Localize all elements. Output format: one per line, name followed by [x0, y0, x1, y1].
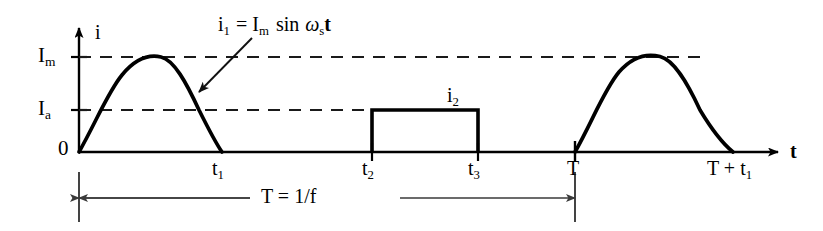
x-tick-label-T-plus-t1: T + t1	[707, 158, 752, 181]
equation-Im-sub: m	[259, 24, 269, 38]
x-tick-Tt1-main: T + t	[707, 157, 746, 179]
y-tick-label-Im: Im	[38, 45, 55, 68]
x-tick-label-t3: t3	[468, 158, 480, 181]
period-dimension	[79, 172, 575, 222]
y-axis-label: i	[95, 22, 101, 42]
equation-t: t	[324, 13, 331, 35]
sine-equation-label: i1= Imsinωst	[218, 14, 331, 37]
equation-leader-arrow	[199, 38, 252, 92]
rect-pulse-i2	[372, 110, 478, 152]
equation-omega: ω	[305, 13, 319, 35]
sine-pulse-2	[575, 55, 733, 152]
equation-equals: = I	[236, 13, 259, 35]
y-tick-Im-sub: m	[45, 54, 55, 69]
x-tick-t2-sub: 2	[368, 168, 374, 182]
x-tick-label-t1: t1	[212, 158, 224, 181]
x-axis-label: t	[790, 141, 797, 161]
sine-pulse-1	[79, 56, 222, 152]
x-tick-t3-sub: 3	[474, 168, 480, 182]
waveform-figure: i t 0 Im Ia t1 t2 t3 T T + t1 i1= Imsinω…	[0, 0, 823, 231]
y-tick-Ia-main: I	[38, 96, 45, 120]
period-dimension-label: T = 1/f	[256, 186, 321, 206]
x-tick-label-T: T	[567, 158, 579, 178]
x-tick-t1-sub: 1	[218, 168, 224, 182]
equation-i-sub: 1	[224, 24, 230, 38]
y-tick-Ia-sub: a	[45, 107, 51, 122]
x-tick-label-t2: t2	[362, 158, 374, 181]
y-tick-label-Ia: Ia	[38, 98, 51, 121]
figure-canvas	[0, 0, 823, 231]
pulse-label-i2: i2	[447, 85, 459, 108]
equation-sin: sin	[276, 13, 299, 35]
y-tick-Im-main: I	[38, 43, 45, 67]
pulse-i2-sub: 2	[453, 95, 459, 109]
x-tick-Tt1-sub: 1	[746, 168, 752, 182]
origin-label: 0	[58, 138, 69, 159]
